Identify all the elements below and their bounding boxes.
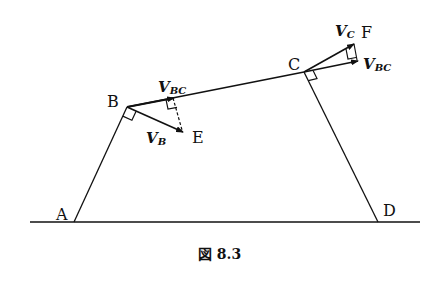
label-E: E (192, 128, 204, 147)
figure-caption: 図 8.3 (198, 246, 241, 262)
right-angle-mark-C (308, 71, 317, 81)
linkage-diagram: A B C D E F VBC VB VC VBC 図 8.3 (0, 0, 436, 286)
label-VBC-at-B: VBC (158, 78, 186, 96)
link-CD (304, 72, 378, 222)
label-VBC-at-C: VBC (363, 55, 391, 73)
label-VC: VC (335, 22, 355, 40)
link-AB (74, 107, 127, 222)
dashed-projection-line (173, 98, 182, 130)
vector-VBC-at-C (304, 61, 358, 72)
label-A: A (55, 205, 68, 224)
right-angle-mark-F (346, 49, 356, 59)
label-B: B (107, 92, 119, 111)
label-F: F (361, 23, 372, 42)
vector-VC (304, 44, 354, 72)
label-VB: VB (146, 129, 166, 147)
label-C: C (288, 55, 300, 74)
label-D: D (383, 201, 396, 220)
